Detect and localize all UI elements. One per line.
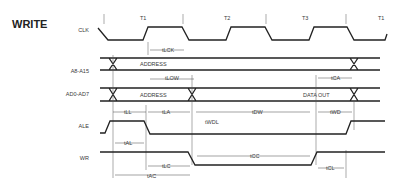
param-tcl: tCL bbox=[326, 165, 335, 171]
param-tla: tLA bbox=[162, 109, 171, 115]
param-tlck: tLCK bbox=[162, 47, 175, 53]
param-tcc: tCC bbox=[250, 153, 260, 159]
param-twdl: tWDL bbox=[205, 119, 219, 125]
ad-data-out-label: DATA OUT bbox=[303, 92, 330, 98]
param-twd: tWD bbox=[330, 109, 341, 115]
signal-label-clk: CLK bbox=[78, 27, 89, 33]
signal-label-a8-a15: A8-A15 bbox=[71, 68, 89, 74]
phase-label-t3: T3 bbox=[302, 15, 308, 21]
signal-label-ad0-ad7: AD0-AD7 bbox=[66, 91, 89, 97]
ale-waveform bbox=[100, 121, 385, 134]
param-tdw: tDW bbox=[252, 109, 264, 115]
wr-waveform bbox=[100, 152, 385, 165]
param-tca: tCA bbox=[331, 75, 341, 81]
param-tlc: tLC bbox=[162, 163, 171, 169]
param-tll: tLL bbox=[124, 109, 132, 115]
signal-label-wr: WR bbox=[80, 155, 89, 161]
write-timing-diagram: WRITE CLK A8-A15 AD0-AD7 ALE WR T1 T2 T3… bbox=[0, 0, 399, 186]
a8-a15-address-label: ADDRESS bbox=[140, 61, 167, 67]
param-tac: tAC bbox=[147, 173, 156, 179]
phase-label-t1: T1 bbox=[140, 15, 146, 21]
phase-label-t1-next: T1 bbox=[378, 15, 384, 21]
param-tal: tAL bbox=[124, 140, 132, 146]
clk-waveform bbox=[98, 27, 387, 40]
signal-label-ale: ALE bbox=[79, 123, 90, 129]
phase-label-t2: T2 bbox=[224, 15, 230, 21]
diagram-title: WRITE bbox=[12, 18, 47, 30]
param-tlow: tLOW bbox=[165, 75, 180, 81]
ad-address-label: ADDRESS bbox=[140, 92, 167, 98]
